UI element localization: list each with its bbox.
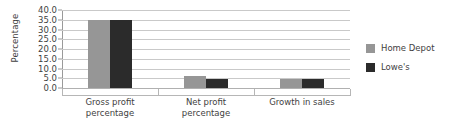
x-axis-category-labels: Gross profitpercentageNet profitpercenta… xyxy=(62,97,350,127)
axis-baseline xyxy=(62,88,350,89)
y-axis-tick-mark xyxy=(58,39,62,40)
y-axis-tick-mark xyxy=(58,78,62,79)
bar xyxy=(88,20,110,88)
y-axis-tick-label: 20.0 xyxy=(17,45,57,54)
y-axis-tick-label: 10.0 xyxy=(17,64,57,73)
bar xyxy=(110,20,132,88)
legend-label: Home Depot xyxy=(381,44,435,53)
category-label-line: Net profit xyxy=(158,97,254,108)
category-label-line: Gross profit xyxy=(62,97,158,108)
y-axis-tick-mark xyxy=(58,68,62,69)
bar xyxy=(184,76,206,88)
bar-group xyxy=(280,10,324,88)
bar-chart: Percentage 0.05.010.015.020.025.030.035.… xyxy=(0,0,458,127)
y-axis-tick-labels: 0.05.010.015.020.025.030.035.040.0 xyxy=(17,10,57,88)
x-axis-tick-mark xyxy=(254,89,255,96)
category-label-line: percentage xyxy=(158,108,254,119)
x-axis-tick-mark xyxy=(350,89,351,96)
x-axis-category-label: Net profitpercentage xyxy=(158,97,254,119)
y-axis-tick-mark xyxy=(58,58,62,59)
y-axis-tick-label: 25.0 xyxy=(17,35,57,44)
legend-item[interactable]: Lowe's xyxy=(366,60,435,75)
y-axis-tick-label: 0.0 xyxy=(17,84,57,93)
bars-layer xyxy=(62,10,350,88)
category-label-line: percentage xyxy=(62,108,158,119)
y-axis-tick-label: 5.0 xyxy=(17,74,57,83)
chart-legend: Home DepotLowe's xyxy=(366,41,435,79)
y-axis-tick-mark xyxy=(58,49,62,50)
y-axis-tick-mark xyxy=(58,29,62,30)
y-axis-tick-mark xyxy=(58,10,62,11)
y-axis-tick-label: 30.0 xyxy=(17,25,57,34)
x-axis-category-label: Gross profitpercentage xyxy=(62,97,158,119)
category-label-line: Growth in sales xyxy=(254,97,350,108)
x-axis-line xyxy=(62,95,350,96)
y-axis-tick-label: 35.0 xyxy=(17,16,57,25)
legend-swatch-icon xyxy=(366,63,375,72)
x-axis-tick-mark xyxy=(62,89,63,96)
x-axis-tick-mark xyxy=(158,89,159,96)
bar xyxy=(302,79,324,88)
y-axis-tick-mark xyxy=(58,19,62,20)
bar-group xyxy=(184,10,228,88)
bar xyxy=(280,79,302,88)
legend-swatch-icon xyxy=(366,44,375,53)
plot-area xyxy=(62,10,350,88)
legend-item[interactable]: Home Depot xyxy=(366,41,435,56)
bar-group xyxy=(88,10,132,88)
bar xyxy=(206,79,228,88)
y-axis-tick-label: 15.0 xyxy=(17,55,57,64)
y-axis-tick-label: 40.0 xyxy=(17,6,57,15)
x-axis-category-label: Growth in sales xyxy=(254,97,350,108)
legend-label: Lowe's xyxy=(381,63,410,72)
